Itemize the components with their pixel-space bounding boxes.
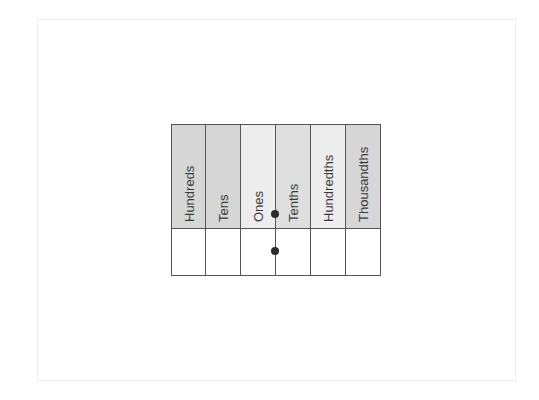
value-cell-tens bbox=[206, 229, 241, 276]
column-thousandths: Thousandths bbox=[346, 124, 381, 276]
header-cell-tenths: Tenths bbox=[276, 124, 311, 229]
value-cell-tenths bbox=[276, 229, 311, 276]
column-label: Ones bbox=[251, 191, 266, 222]
column-label: Tenths bbox=[286, 184, 301, 222]
decimal-point-dot-body bbox=[271, 247, 279, 255]
header-cell-thousandths: Thousandths bbox=[346, 124, 381, 229]
header-cell-hundredths: Hundredths bbox=[311, 124, 346, 229]
decimal-point-dot-header bbox=[271, 210, 279, 218]
column-tens: Tens bbox=[206, 124, 241, 276]
column-label: Tens bbox=[216, 195, 231, 222]
place-value-chart: Hundreds Tens Ones Tenths Hundredths Tho… bbox=[171, 124, 382, 276]
header-cell-tens: Tens bbox=[206, 124, 241, 229]
column-hundreds: Hundreds bbox=[171, 124, 206, 276]
value-cell-thousandths bbox=[346, 229, 381, 276]
column-tenths: Tenths bbox=[276, 124, 311, 276]
column-label: Thousandths bbox=[356, 147, 371, 222]
value-cell-hundreds bbox=[171, 229, 206, 276]
header-cell-hundreds: Hundreds bbox=[171, 124, 206, 229]
column-hundredths: Hundredths bbox=[311, 124, 346, 276]
column-label: Hundreds bbox=[181, 166, 196, 222]
value-cell-hundredths bbox=[311, 229, 346, 276]
column-label: Hundredths bbox=[321, 155, 336, 222]
